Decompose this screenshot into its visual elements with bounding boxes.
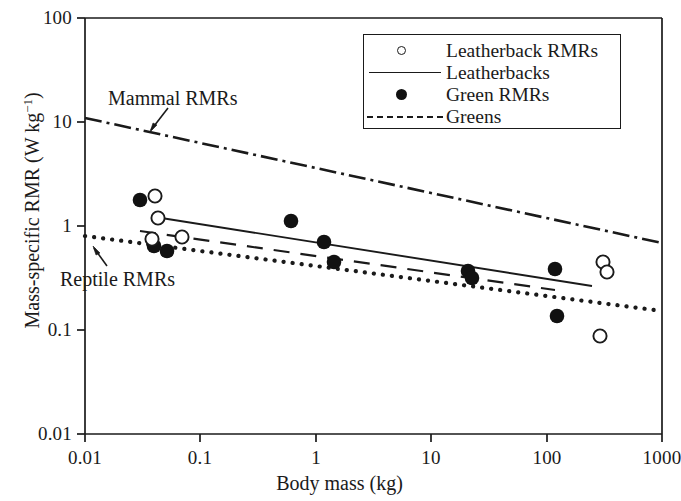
mammal-rmr-line [85, 118, 662, 243]
y-axis-title-text: Mass-specific RMR (W kg [21, 113, 43, 329]
legend-item-green-rmrs: Green RMRs [364, 83, 620, 106]
legend-item-leatherbacks: Leatherbacks [364, 61, 620, 84]
leatherbacks-fit-line [155, 217, 592, 286]
legend-item-greens: Greens [364, 105, 620, 128]
dashed-line-icon [367, 116, 443, 118]
x-tick-label: 0.01 [68, 447, 102, 469]
data-point-open [600, 265, 613, 278]
chart-legend: Leatherback RMRs Leatherbacks Green RMRs… [363, 34, 621, 129]
y-tick-label: 0.01 [10, 423, 72, 445]
leatherback-rmr-points [145, 189, 613, 342]
data-point-filled [548, 262, 563, 277]
data-point-filled [284, 214, 299, 229]
data-point-open [593, 329, 606, 342]
legend-key-solid-line [364, 61, 446, 84]
legend-label: Greens [446, 105, 501, 128]
legend-label: Green RMRs [446, 83, 549, 106]
data-point-filled [465, 271, 480, 286]
y-axis-title: Mass-specific RMR (W kg−1) [20, 45, 45, 375]
solid-line-icon [369, 72, 441, 73]
x-tick-label: 10 [421, 447, 440, 469]
data-point-filled [550, 309, 565, 324]
x-axis-title: Body mass (kg) [0, 472, 679, 495]
data-point-open [148, 189, 161, 202]
greens-fit-line [140, 231, 555, 290]
x-tick-label: 1 [311, 447, 321, 469]
legend-item-leatherback-rmrs: Leatherback RMRs [364, 39, 620, 62]
x-tick-label: 100 [532, 447, 561, 469]
annotation-reptile-rmrs: Reptile RMRs [60, 268, 175, 291]
y-axis-ticks [77, 18, 85, 434]
annotation-mammal-rmrs: Mammal RMRs [108, 87, 237, 110]
data-point-filled [160, 244, 175, 259]
reptile-annotation-arrow [93, 246, 107, 266]
legend-key-filled-circle [364, 83, 446, 106]
filled-circle-icon [396, 89, 407, 100]
data-point-filled [327, 255, 342, 270]
x-tick-label: 0.1 [188, 447, 212, 469]
mammal-annotation-arrow [150, 108, 168, 132]
data-point-filled [133, 193, 148, 208]
y-axis-title-close: ) [21, 92, 43, 99]
x-axis-ticks [85, 434, 662, 442]
y-axis-title-exponent: −1 [20, 99, 35, 113]
legend-key-open-circle [364, 39, 446, 62]
data-point-open [175, 230, 188, 243]
data-point-open [151, 211, 164, 224]
legend-label: Leatherbacks [446, 61, 550, 84]
legend-label: Leatherback RMRs [446, 39, 598, 62]
y-tick-label: 100 [10, 7, 72, 29]
legend-key-dashed-line [364, 105, 446, 128]
x-tick-label: 1000 [643, 447, 681, 469]
data-point-open [145, 232, 158, 245]
open-circle-icon [397, 46, 406, 55]
green-rmr-points [133, 193, 565, 324]
data-point-filled [317, 235, 332, 250]
